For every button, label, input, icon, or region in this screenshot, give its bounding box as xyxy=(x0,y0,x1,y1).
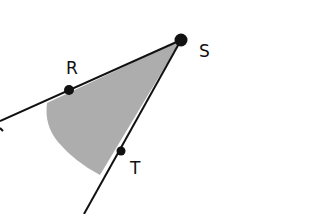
point-t xyxy=(117,147,126,156)
point-s xyxy=(175,34,188,47)
edge-tick-mark xyxy=(0,128,3,131)
label-t: T xyxy=(129,158,141,178)
point-r xyxy=(64,85,74,95)
angle-diagram: R S T xyxy=(0,0,309,214)
label-s: S xyxy=(199,41,210,61)
label-r: R xyxy=(66,58,78,78)
